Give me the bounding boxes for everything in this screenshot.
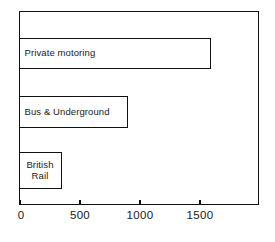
x-axis-tick-500 <box>79 200 81 205</box>
x-axis-tick-0 <box>20 200 22 205</box>
x-axis-label-1500: 1500 <box>187 209 214 221</box>
x-axis-label-500: 500 <box>70 209 90 221</box>
bar-private-motoring: Private motoring <box>19 38 211 69</box>
bar-british-rail: British Rail <box>19 152 62 189</box>
x-axis-label-1000: 1000 <box>127 209 154 221</box>
x-axis-tick-1500 <box>199 200 201 205</box>
bar-label-british-rail: British Rail <box>20 160 61 181</box>
bar-chart: Private motoring Bus & Underground Briti… <box>0 0 275 242</box>
bar-label-bus-and-underground: Bus & Underground <box>20 107 110 118</box>
x-axis-tick-1000 <box>139 200 141 205</box>
plot-area: Private motoring Bus & Underground Briti… <box>19 11 259 205</box>
bar-label-private-motoring: Private motoring <box>20 48 96 59</box>
x-axis-label-0: 0 <box>18 209 25 221</box>
bar-bus-and-underground: Bus & Underground <box>19 96 128 128</box>
